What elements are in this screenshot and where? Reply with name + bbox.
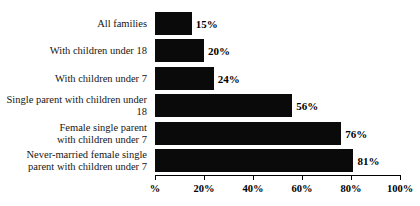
- bar-value-label: 15%: [192, 18, 218, 30]
- category-label: With children under 18: [0, 38, 151, 66]
- bar-chart: All familiesWith children under 18With c…: [0, 0, 420, 206]
- bar: [155, 149, 353, 172]
- x-axis-tick: [351, 175, 352, 180]
- category-label: With children under 7: [0, 65, 151, 93]
- category-label: Never-married female single parent with …: [0, 148, 151, 176]
- category-label-text: Female single parent with children under…: [0, 122, 151, 146]
- bar: [155, 94, 292, 117]
- category-label-text: With children under 7: [0, 73, 151, 85]
- category-label-text: All families: [0, 18, 151, 30]
- x-axis-tick: [155, 175, 156, 180]
- bar: [155, 67, 214, 90]
- bar-value-label: 56%: [292, 100, 318, 112]
- category-label-text: Single parent with children under 18: [0, 94, 151, 118]
- bar-value-label: 24%: [214, 73, 240, 85]
- x-axis-tick: [253, 175, 254, 180]
- bar: [155, 39, 204, 62]
- x-axis-tick-label: 80%: [341, 183, 362, 194]
- x-axis-tick-label: %: [150, 183, 161, 194]
- category-label-text: Never-married female single parent with …: [0, 149, 151, 173]
- bar-row: 15%: [155, 10, 400, 38]
- bar-value-label: 76%: [341, 128, 367, 140]
- bar: [155, 122, 341, 145]
- bar-row: 76%: [155, 120, 400, 148]
- bar-value-label: 81%: [353, 155, 379, 167]
- category-label: All families: [0, 10, 151, 38]
- category-label-text: With children under 18: [0, 45, 151, 57]
- plot-area: 15%20%24%56%76%81%: [155, 10, 400, 175]
- category-label-column: All familiesWith children under 18With c…: [0, 10, 151, 175]
- bar-row: 56%: [155, 93, 400, 121]
- bar-row: 20%: [155, 38, 400, 66]
- x-axis-tick: [302, 175, 303, 180]
- bar-row: 81%: [155, 148, 400, 176]
- category-label: Single parent with children under 18: [0, 93, 151, 121]
- category-label: Female single parent with children under…: [0, 120, 151, 148]
- x-axis-line: [155, 175, 401, 176]
- x-axis-tick: [204, 175, 205, 180]
- bar-row: 24%: [155, 65, 400, 93]
- bar: [155, 12, 192, 35]
- x-axis-tick: [400, 175, 401, 180]
- x-axis-tick-label: 60%: [292, 183, 313, 194]
- x-axis-tick-label: 20%: [194, 183, 215, 194]
- x-axis-tick-label: 100%: [387, 183, 413, 194]
- x-axis-tick-label: 40%: [243, 183, 264, 194]
- bar-value-label: 20%: [204, 45, 230, 57]
